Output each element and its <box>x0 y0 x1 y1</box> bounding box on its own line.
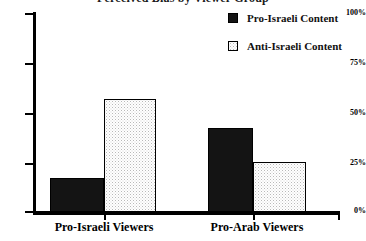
y-axis-tick-50 <box>25 113 33 115</box>
y-axis-tick-100 <box>25 13 33 15</box>
bar-group0-series1 <box>104 99 156 212</box>
chart-legend: Pro-Israeli Content Anti-Israeli Content <box>228 8 342 56</box>
legend-item-pro-israeli-content: Pro-Israeli Content <box>228 8 342 28</box>
legend-swatch-solid-icon <box>228 13 238 23</box>
legend-label-pro-israeli-content: Pro-Israeli Content <box>247 12 338 24</box>
y-axis-tick-0 <box>25 211 33 213</box>
y-axis-tick-25 <box>25 163 33 165</box>
bar-group0-series0 <box>50 178 104 212</box>
y-axis-label-0: 0% <box>342 207 366 215</box>
x-axis-group-label-pro-israeli-viewers: Pro-Israeli Viewers <box>34 220 174 234</box>
chart-title: Perceived Bias by Viewer Group <box>0 0 366 6</box>
x-axis-tick-1 <box>253 211 255 220</box>
y-axis-label-25: 25% <box>342 159 366 167</box>
legend-label-anti-israeli-content: Anti-Israeli Content <box>247 40 342 52</box>
bar-group1-series0 <box>208 128 253 212</box>
y-axis-label-75: 75% <box>342 59 366 67</box>
bar-group1-series1 <box>253 162 306 212</box>
x-axis-tick-2 <box>338 211 340 220</box>
legend-item-anti-israeli-content: Anti-Israeli Content <box>228 36 342 56</box>
x-axis-tick-0 <box>104 211 106 220</box>
y-axis-label-100: 100% <box>342 9 366 17</box>
x-axis-group-label-pro-arab-viewers: Pro-Arab Viewers <box>192 220 322 234</box>
y-axis-tick-75 <box>25 63 33 65</box>
legend-swatch-dotted-icon <box>228 41 238 51</box>
bar-chart: Perceived Bias by Viewer Group 100% 75% … <box>0 0 366 241</box>
y-axis-label-50: 50% <box>342 109 366 117</box>
